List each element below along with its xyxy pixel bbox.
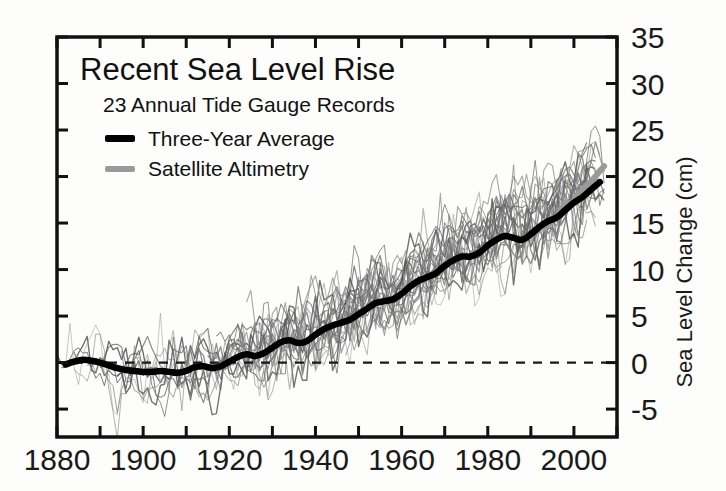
chart-subtitle: 23 Annual Tide Gauge Records — [103, 93, 395, 116]
chart-canvas: 1880190019201940196019802000 -5051015202… — [0, 0, 726, 491]
x-tick-label: 1980 — [454, 443, 521, 476]
x-tick-label: 1880 — [24, 443, 91, 476]
y-tick-label: 25 — [631, 114, 664, 147]
y-tick-label: 30 — [631, 68, 664, 101]
y-tick-label: 0 — [631, 347, 648, 380]
legend-swatch-satellite-altimetry — [105, 166, 135, 172]
y-tick-label: 20 — [631, 161, 664, 194]
x-tick-label: 1960 — [368, 443, 435, 476]
x-tick-label: 1940 — [282, 443, 349, 476]
y-tick-label: 35 — [631, 21, 664, 54]
x-axis-tick-labels: 1880190019201940196019802000 — [24, 443, 608, 476]
y-axis-label: Sea Level Change (cm) — [672, 156, 697, 387]
x-tick-label: 1900 — [110, 443, 177, 476]
legend-swatch-three-year-average — [105, 135, 135, 142]
x-tick-label: 2000 — [541, 443, 608, 476]
y-tick-label: 15 — [631, 207, 664, 240]
chart-title: Recent Sea Level Rise — [80, 52, 395, 87]
y-tick-label: -5 — [631, 393, 658, 426]
legend-label-three-year-average: Three-Year Average — [148, 127, 335, 150]
legend-label-satellite-altimetry: Satellite Altimetry — [148, 157, 310, 180]
y-tick-label: 10 — [631, 254, 664, 287]
x-tick-label: 1920 — [196, 443, 263, 476]
sea-level-rise-figure: 1880190019201940196019802000 -5051015202… — [0, 0, 726, 491]
y-tick-label: 5 — [631, 300, 648, 333]
